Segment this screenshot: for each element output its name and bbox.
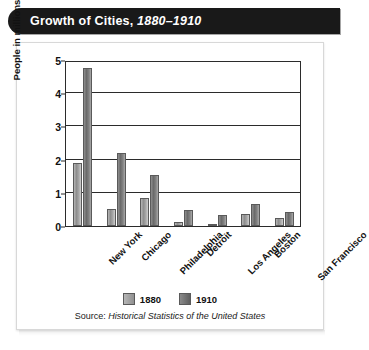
y-axis-title: People in millions <box>11 0 22 95</box>
x-axis-label: San Francisco <box>315 229 369 283</box>
bar-group <box>73 62 93 226</box>
source-work-title: Historical Statistics of the United Stat… <box>108 311 265 321</box>
bar <box>174 222 183 226</box>
plot-wrapper: People in millions 012345 New YorkChicag… <box>17 43 323 329</box>
bar <box>275 218 284 226</box>
y-axis-tick-label: 5 <box>39 55 61 67</box>
bar-group <box>174 62 194 226</box>
bar <box>251 204 260 226</box>
bar <box>107 209 116 226</box>
legend-item: 1910 <box>179 293 217 305</box>
page-title: Growth of Cities, 1880–1910 <box>30 8 201 34</box>
bar-group <box>241 62 261 226</box>
bar <box>117 153 126 226</box>
bar <box>150 175 159 226</box>
y-axis-tick-label: 1 <box>39 188 61 200</box>
bar <box>218 215 227 226</box>
legend-label: 1880 <box>140 294 161 305</box>
bar-group <box>107 62 127 226</box>
bar <box>208 224 217 226</box>
bar <box>184 210 193 226</box>
x-axis-labels: New YorkChicagoPhiladelphiaDetroitLos An… <box>65 229 301 291</box>
title-main-text: Growth of Cities, <box>30 14 133 28</box>
bar <box>83 68 92 226</box>
legend-label: 1910 <box>196 294 217 305</box>
legend-item: 1880 <box>123 293 161 305</box>
y-axis-tick-label: 0 <box>39 221 61 233</box>
chart-panel: People in millions 012345 New YorkChicag… <box>16 42 324 330</box>
title-banner: Growth of Cities, 1880–1910 <box>8 8 340 34</box>
plot-area <box>65 61 301 227</box>
bar <box>73 163 82 226</box>
source-prefix: Source: <box>75 311 109 321</box>
bar-group <box>208 62 228 226</box>
bar-group <box>275 62 295 226</box>
y-axis-ticks: 012345 <box>35 61 61 227</box>
x-axis-label: Chicago <box>139 229 173 263</box>
panel-drop-shadow <box>19 330 325 336</box>
bar <box>285 212 294 226</box>
legend-swatch <box>179 293 191 305</box>
bar <box>140 198 149 226</box>
chart-legend: 18801910 <box>17 293 323 305</box>
y-axis-tick-label: 3 <box>39 121 61 133</box>
bar <box>241 214 250 226</box>
source-note: Source: Historical Statistics of the Uni… <box>17 311 323 321</box>
title-years-text: 1880–1910 <box>137 14 201 28</box>
y-axis-tick-label: 4 <box>39 88 61 100</box>
legend-swatch <box>123 293 135 305</box>
bar-group <box>140 62 160 226</box>
x-axis-label: New York <box>106 229 144 267</box>
y-axis-tick-label: 2 <box>39 155 61 167</box>
